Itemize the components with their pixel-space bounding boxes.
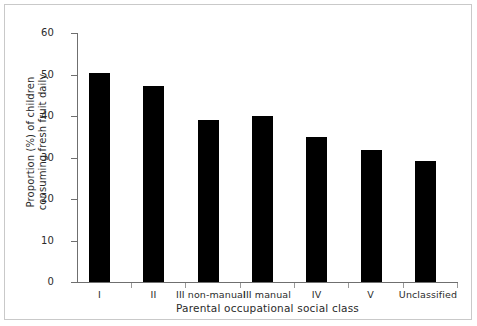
bar-IV [306, 137, 327, 282]
y-tick-label-20: 20 [41, 194, 54, 204]
x-tick-mark-4 [294, 283, 295, 288]
x-axis-title: Parental occupational social class [77, 302, 458, 314]
x-tick-mark-5 [348, 283, 349, 288]
x-category-label-Unclassified: Unclassified [397, 289, 459, 300]
y-axis-title-line-2: consuming fresh fruit daily [37, 32, 49, 252]
y-tick-label-40: 40 [41, 111, 54, 121]
y-tick-label-0: 0 [47, 277, 54, 287]
x-category-label-IV: IV [294, 289, 339, 300]
bar-III-non-manual [198, 120, 219, 282]
y-tick-label-30: 30 [41, 153, 54, 163]
y-axis-title: Proportion (%) of children consuming fre… [25, 32, 49, 252]
x-axis-line [77, 282, 458, 283]
bar-V [361, 150, 382, 282]
x-tick-mark-6 [403, 283, 404, 288]
x-category-label-I: I [77, 289, 122, 300]
bar-I [89, 73, 110, 282]
y-tick-label-10: 10 [41, 236, 54, 246]
x-category-label-III-non-manual: III non-manual [176, 289, 244, 300]
x-category-label-II: II [131, 289, 176, 300]
bar-II [143, 86, 164, 282]
x-tick-mark-1 [131, 283, 132, 288]
x-tick-mark-7 [457, 283, 458, 288]
y-tick-label-60: 60 [41, 28, 54, 38]
figure-frame: Proportion (%) of children consuming fre… [4, 4, 472, 320]
bar-III-manual [252, 116, 273, 282]
x-category-label-V: V [348, 289, 393, 300]
y-tick-label-50: 50 [41, 70, 54, 80]
x-tick-mark-2 [185, 283, 186, 288]
plot-area [77, 33, 457, 282]
bar-Unclassified [415, 161, 436, 282]
y-axis-title-line-1: Proportion (%) of children [25, 32, 37, 252]
x-category-label-III-manual: III manual [238, 289, 296, 300]
x-tick-mark-3 [240, 283, 241, 288]
